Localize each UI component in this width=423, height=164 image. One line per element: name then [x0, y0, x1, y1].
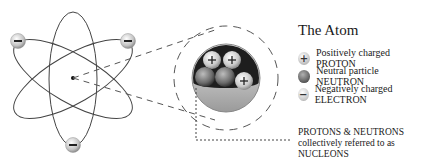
note-line: PROTONS & NEUTRONS	[298, 127, 404, 138]
electron-icon: −	[298, 88, 309, 101]
diagram-title: The Atom	[298, 22, 358, 39]
note-line: NUCLEONS	[298, 149, 404, 160]
legend-label: Negatively charged ELECTRON	[315, 83, 423, 105]
proton-icon: +	[298, 52, 310, 65]
note-line: collectively referred to as	[298, 138, 404, 149]
nucleus	[190, 42, 262, 112]
legend-item-electron: − Negatively charged ELECTRON	[298, 83, 423, 105]
neutron-icon	[298, 70, 310, 83]
nucleons-note: PROTONS & NEUTRONS collectively referred…	[298, 127, 404, 160]
